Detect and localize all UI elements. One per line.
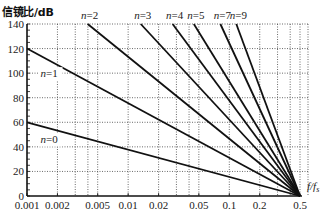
x-axis-title: f/fs	[307, 180, 319, 194]
series-lines	[27, 24, 300, 196]
x-tick-label: 0.005	[85, 199, 110, 211]
image-rejection-chart: 0204060801001201400.0010.0020.0050.010.0…	[0, 0, 327, 213]
series-label: n=5	[187, 9, 205, 21]
y-tick-label: 120	[8, 43, 25, 55]
x-tick-label: 0.05	[189, 199, 209, 211]
y-tick-label: 60	[13, 116, 25, 128]
x-tick-label: 0.01	[119, 199, 138, 211]
y-tick-label: 20	[13, 165, 25, 177]
x-tick-label: 0.2	[253, 199, 267, 211]
series-label: n=2	[81, 9, 98, 21]
series-line-n-3	[141, 24, 300, 196]
grid-lines	[27, 24, 308, 196]
series-label: n=3	[134, 9, 152, 21]
series-line-n-7	[220, 24, 300, 196]
x-tick-label: 0.02	[149, 199, 168, 211]
x-tick-label: 0.001	[15, 199, 40, 211]
x-tick-label: 0.002	[45, 199, 70, 211]
series-line-n-0	[27, 122, 300, 196]
series-labels: n=2n=3n=4n=5n=7n=9n=0n=1	[39, 9, 248, 146]
y-tick-label: 140	[8, 18, 25, 30]
series-label: n=9	[230, 9, 248, 21]
y-tick-label: 80	[13, 92, 25, 104]
series-label: n=1	[41, 67, 58, 79]
y-tick-label: 100	[8, 67, 25, 79]
x-tick-label: 0.5	[293, 199, 307, 211]
x-tick-label: 0.1	[222, 199, 236, 211]
y-tick-label: 40	[13, 141, 25, 153]
series-line-n-5	[194, 24, 300, 196]
series-label: n=0	[41, 133, 59, 145]
series-line-n-4	[173, 24, 300, 196]
series-label: n=4	[166, 9, 184, 21]
